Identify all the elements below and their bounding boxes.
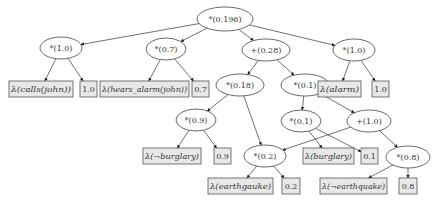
node-label: *(1.0)	[343, 46, 366, 55]
indicator-leaf: λ(¬burglary)	[143, 148, 201, 164]
node-label: +(0.28)	[251, 46, 282, 55]
node-label: *(0.196)	[208, 15, 241, 24]
edge-n7-to-l7	[177, 130, 189, 148]
leaf-label: λ(¬earthquake)	[321, 182, 385, 191]
edge-n3-to-n5	[248, 60, 259, 74]
leaf-label: 0.1	[363, 152, 376, 161]
edge-n11-to-l13	[369, 165, 393, 178]
leaf-label: λ(earthgauke)	[209, 182, 271, 191]
operator-node: *(0.18)	[216, 74, 264, 96]
node-label: *(0.7)	[155, 45, 178, 54]
operator-node: *(0.2)	[244, 145, 286, 167]
parameter-leaf: 0.9	[214, 148, 231, 164]
edge-n5-to-n10	[244, 96, 261, 145]
indicator-leaf: λ(¬earthquake)	[320, 178, 387, 194]
edge-n10-to-l12	[274, 166, 284, 178]
operator-node: *(0.7)	[146, 38, 186, 60]
node-label: *(0.18)	[226, 81, 254, 90]
edge-n7-to-l8	[204, 130, 217, 148]
edge-n2-to-l3	[149, 60, 161, 82]
operator-node: *(1.0)	[333, 39, 375, 61]
leaf-label: 0.2	[285, 182, 298, 191]
operator-node: *(1.0)	[40, 37, 82, 59]
indicator-leaf: λ(alarm)	[318, 81, 361, 97]
parameter-leaf: 1.0	[372, 81, 389, 97]
edge-n1-to-l2	[68, 58, 83, 81]
node-label: *(0.2)	[254, 152, 277, 161]
leaves-layer: λ(calls(john))1.0λ(hears_alarm(john))0.7…	[9, 81, 417, 194]
indicator-leaf: λ(calls(john))	[9, 81, 73, 97]
operator-node: *(0.196)	[197, 7, 253, 31]
parameter-leaf: 1.0	[80, 81, 97, 97]
leaf-label: λ(¬burglary)	[144, 152, 199, 161]
edge-n8-to-l9	[309, 131, 322, 148]
node-label: *(0.8)	[397, 153, 420, 162]
nodes-layer: *(0.196)*(1.0)*(0.7)+(0.28)*(1.0)*(0.18)…	[40, 7, 430, 168]
node-label: *(0.1)	[290, 117, 313, 126]
edge-n4-to-l6	[361, 60, 375, 81]
operator-node: *(0.9)	[176, 109, 216, 131]
edge-n4-to-l5	[343, 61, 351, 81]
edge-root-to-n2	[181, 28, 207, 41]
edge-n1-to-l1	[45, 59, 56, 81]
indicator-leaf: λ(burglary)	[303, 148, 354, 164]
node-label: *(0.1)	[294, 81, 317, 90]
leaf-label: 0.9	[216, 152, 229, 161]
operator-node: +(0.28)	[242, 39, 290, 61]
leaf-label: 1.0	[82, 85, 95, 94]
leaf-label: λ(alarm)	[319, 85, 359, 94]
node-label: *(1.0)	[50, 44, 73, 53]
leaf-label: λ(burglary)	[304, 152, 352, 161]
edge-n3-to-n6	[277, 60, 294, 75]
indicator-leaf: λ(hears_alarm(john))	[100, 81, 189, 97]
operator-node: +(1.0)	[347, 110, 391, 132]
parameter-leaf: 0.7	[192, 81, 209, 97]
edge-n5-to-n7	[207, 95, 228, 112]
edge-n6-to-n8	[302, 96, 304, 110]
arithmetic-circuit-diagram: *(0.196)*(1.0)*(0.7)+(0.28)*(1.0)*(0.18)…	[0, 0, 433, 206]
parameter-leaf: 0.2	[282, 178, 300, 194]
leaf-label: λ(hears_alarm(john))	[101, 85, 187, 94]
leaf-label: 0.8	[402, 182, 415, 191]
leaf-label: λ(calls(john))	[10, 85, 71, 94]
parameter-leaf: 0.1	[361, 148, 378, 164]
edge-n10-to-l11	[247, 166, 257, 178]
leaf-label: 1.0	[374, 85, 387, 94]
node-label: *(0.9)	[185, 116, 208, 125]
edge-n9-to-n11	[380, 131, 398, 148]
operator-node: *(0.1)	[281, 110, 321, 132]
node-label: +(1.0)	[356, 117, 382, 126]
leaf-label: 0.7	[194, 85, 207, 94]
operator-node: *(0.8)	[386, 146, 430, 168]
indicator-leaf: λ(earthgauke)	[208, 178, 273, 194]
parameter-leaf: 0.8	[399, 178, 417, 194]
edge-root-to-n3	[239, 29, 254, 40]
edge-n2-to-l4	[175, 59, 194, 81]
